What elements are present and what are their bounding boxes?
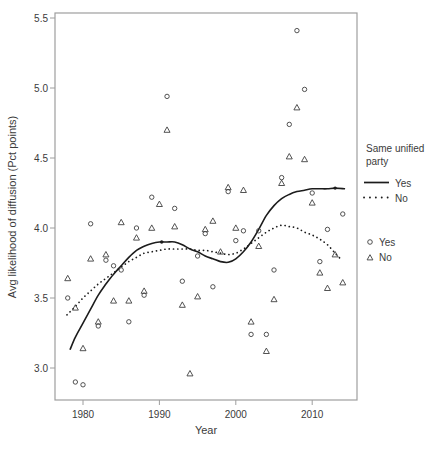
yes-scatter-point <box>249 332 253 336</box>
no-scatter-point <box>302 156 308 161</box>
yes-scatter-point <box>134 226 138 230</box>
no-scatter-point <box>80 345 86 350</box>
yes-scatter-point <box>295 28 299 32</box>
no-scatter-point <box>72 305 78 310</box>
legend: Same unified party Yes No Yes No <box>364 143 424 263</box>
yes-scatter-point <box>66 296 70 300</box>
yes-scatter-point <box>325 227 329 231</box>
no-scatter-point <box>202 226 208 231</box>
no-scatter-point <box>149 225 155 230</box>
yes-scatter-point <box>195 254 199 258</box>
no-scatter-point <box>210 218 216 223</box>
yes-scatter-point <box>150 195 154 199</box>
plot-frame <box>55 13 357 400</box>
yes-smooth-curve <box>70 188 345 350</box>
no-scatter-point <box>133 235 139 240</box>
yes-scatter-point <box>341 212 345 216</box>
no-scatter-point <box>126 298 132 303</box>
y-tick-label: 3.5 <box>34 293 48 304</box>
y-axis-title: Avg likelihood of diffusion (Pct points) <box>6 116 18 298</box>
yes-scatter-point <box>180 279 184 283</box>
yes-scatter-point <box>165 94 169 98</box>
y-tick-label: 5.5 <box>34 13 48 24</box>
legend-title-line1: Same unified <box>366 143 424 154</box>
no-scatter-point <box>340 280 346 285</box>
y-tick-label: 4.0 <box>34 223 48 234</box>
no-scatter-point <box>233 225 239 230</box>
smooth-curves <box>67 186 345 349</box>
yes-scatter-point <box>127 320 131 324</box>
no-scatter-point <box>95 319 101 324</box>
x-tick-label: 2000 <box>225 409 248 420</box>
no-scatter-point <box>324 285 330 290</box>
yes-scatter-point <box>88 222 92 226</box>
no-scatter-point <box>317 270 323 275</box>
scatter-points <box>65 28 346 387</box>
no-scatter-point <box>332 252 338 257</box>
no-scatter-point <box>187 371 193 376</box>
no-scatter-point <box>225 184 231 189</box>
yes-scatter-point <box>111 264 115 268</box>
no-scatter-point <box>111 298 117 303</box>
no-scatter-point <box>309 200 315 205</box>
no-scatter-point <box>118 219 124 224</box>
no-scatter-point <box>248 319 254 324</box>
yes-scatter-point <box>318 259 322 263</box>
diffusion-scatter-chart: 3.03.54.04.55.05.51980199020002010 Year … <box>0 0 428 452</box>
x-axis-title: Year <box>195 424 218 436</box>
no-scatter-point <box>172 224 178 229</box>
yes-scatter-point <box>172 206 176 210</box>
legend-triangle-marker-label: No <box>379 252 392 263</box>
no-scatter-point <box>179 302 185 307</box>
x-tick-label: 2010 <box>301 409 324 420</box>
yes-scatter-point <box>104 258 108 262</box>
yes-scatter-point <box>234 238 238 242</box>
yes-scatter-point <box>73 380 77 384</box>
yes-scatter-point <box>81 383 85 387</box>
no-scatter-point <box>156 201 162 206</box>
solid-curve-dot <box>333 186 336 189</box>
solid-curve-dot <box>160 240 163 243</box>
no-scatter-point <box>286 154 292 159</box>
legend-circle-marker-icon <box>368 240 373 245</box>
no-scatter-point <box>294 105 300 110</box>
no-scatter-point <box>65 275 71 280</box>
no-smooth-curve <box>67 225 341 315</box>
yes-scatter-point <box>264 332 268 336</box>
no-scatter-point <box>88 256 94 261</box>
x-tick-label: 1990 <box>148 409 171 420</box>
y-tick-label: 3.0 <box>34 363 48 374</box>
legend-solid-line-label: Yes <box>395 178 411 189</box>
y-tick-label: 5.0 <box>34 83 48 94</box>
axis-ticks: 3.03.54.04.55.05.51980199020002010 <box>34 13 324 420</box>
no-scatter-point <box>279 180 285 185</box>
legend-dotted-line-label: No <box>395 193 408 204</box>
no-scatter-point <box>164 127 170 132</box>
no-scatter-point <box>195 294 201 299</box>
yes-scatter-point <box>272 268 276 272</box>
no-scatter-point <box>256 243 262 248</box>
yes-scatter-point <box>310 191 314 195</box>
chart-page: 3.03.54.04.55.05.51980199020002010 Year … <box>0 0 428 452</box>
y-tick-label: 4.5 <box>34 153 48 164</box>
no-scatter-point <box>271 296 277 301</box>
no-scatter-point <box>240 187 246 192</box>
yes-scatter-point <box>211 285 215 289</box>
yes-scatter-point <box>119 268 123 272</box>
yes-scatter-point <box>302 87 306 91</box>
no-scatter-point <box>141 288 147 293</box>
yes-scatter-point <box>287 122 291 126</box>
legend-circle-marker-label: Yes <box>379 237 395 248</box>
no-scatter-point <box>263 348 269 353</box>
x-tick-label: 1980 <box>72 409 95 420</box>
no-scatter-point <box>103 252 109 257</box>
yes-scatter-point <box>279 175 283 179</box>
legend-triangle-marker-icon <box>367 255 373 260</box>
yes-scatter-point <box>241 229 245 233</box>
legend-title-line2: party <box>366 156 388 167</box>
